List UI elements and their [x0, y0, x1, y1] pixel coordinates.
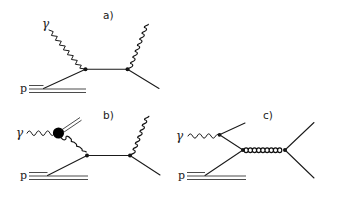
panel-b-label: b): [103, 109, 114, 121]
panel-c-photon-label: γ: [176, 129, 184, 143]
panel-b-proton-label: p: [20, 169, 27, 182]
panel-a-proton-label: p: [20, 82, 27, 95]
panel-c-label: c): [263, 109, 273, 121]
feynman-diagram-figure: a) γ p b): [0, 0, 338, 207]
panel-c-proton-label: p: [178, 169, 185, 182]
diagram-canvas: a) γ p b): [0, 0, 338, 207]
panel-a-label: a): [103, 9, 114, 21]
panel-b-photon-label: γ: [16, 126, 24, 140]
panel-a-photon-label: γ: [42, 17, 50, 31]
